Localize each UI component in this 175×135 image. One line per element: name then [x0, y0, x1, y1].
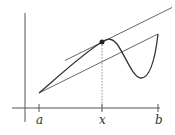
tangent-point — [100, 40, 105, 45]
label-x: x — [99, 113, 106, 127]
tangent-line — [65, 8, 172, 61]
label-a: a — [36, 113, 43, 127]
mvt-diagram: a x b — [0, 0, 175, 135]
label-b: b — [155, 113, 163, 127]
secant-line — [39, 34, 158, 93]
